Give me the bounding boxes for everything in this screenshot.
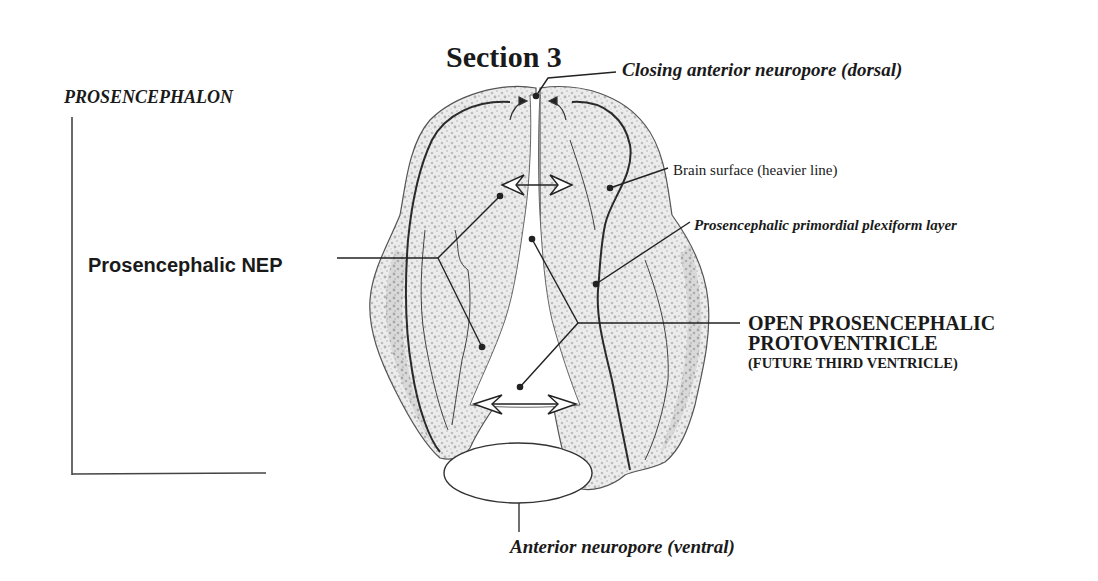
protoventricle-line1: OPEN PROSENCEPHALIC xyxy=(748,313,995,333)
nep-label: Prosencephalic NEP xyxy=(88,254,283,277)
closing-neuropore-label: Closing anterior neuropore (dorsal) xyxy=(622,59,902,81)
brain-surface-label: Brain surface (heavier line) xyxy=(673,162,838,179)
region-label: PROSENCEPHALON xyxy=(64,87,233,108)
prosencephalon-bracket xyxy=(72,117,266,475)
protoventricle-label: OPEN PROSENCEPHALIC PROTOVENTRICLE (FUTU… xyxy=(748,313,995,373)
protoventricle-line2: PROTOVENTRICLE xyxy=(748,333,995,353)
anterior-neuropore-ventral-label: Anterior neuropore (ventral) xyxy=(510,536,735,558)
section-title: Section 3 xyxy=(446,40,562,74)
plexiform-layer-label: Prosencephalic primordial plexiform laye… xyxy=(694,217,957,234)
protoventricle-line3: (FUTURE THIRD VENTRICLE) xyxy=(748,353,995,373)
anterior-neuropore-ellipse xyxy=(444,443,592,532)
